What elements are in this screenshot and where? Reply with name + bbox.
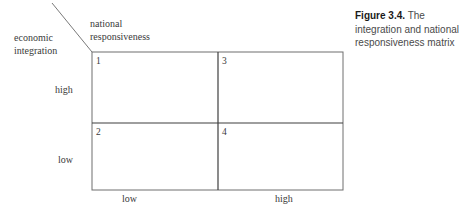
quadrant-label-1: 1 [96,56,101,66]
y-axis-title: economic integration [14,32,57,57]
x-axis-title: national responsiveness [90,18,150,43]
y-axis-title-line-2: integration [14,45,57,58]
y-axis-tick-low: low [58,154,73,167]
y-axis-title-line-1: economic [14,32,57,45]
y-axis-tick-high: high [55,84,73,97]
figure-caption: Figure 3.4. The integration and national… [355,9,466,50]
x-axis-title-line-2: responsiveness [90,31,150,44]
x-axis-title-line-1: national [90,18,150,31]
x-axis-tick-low: low [122,193,137,206]
figure-3-4: economic integration national responsive… [0,0,466,222]
quadrant-label-4: 4 [222,127,227,137]
quadrant-label-3: 3 [222,56,227,66]
quadrant-label-2: 2 [96,127,101,137]
x-axis-tick-high: high [275,193,293,206]
figure-caption-label: Figure 3.4. [355,10,405,21]
axis-pointer-diagonal-line [52,3,92,52]
